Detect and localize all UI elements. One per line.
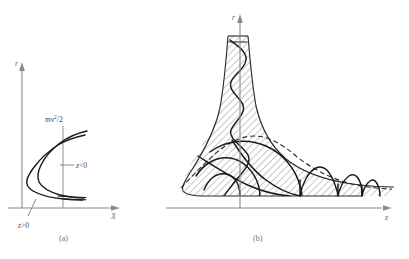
panel-a-reference-label: mv2/2 — [45, 114, 63, 124]
panel-b-r-axis-label: r — [232, 13, 236, 22]
figure-container: mv2/2 z<0 z>0 r X (a) — [0, 0, 409, 259]
panel-b-z-axis-label: z — [384, 213, 389, 222]
panel-a-annotation-z-positive: z>0 — [17, 199, 36, 230]
panel-b-z-axis — [166, 205, 392, 211]
two-panel-physics-diagram: mv2/2 z<0 z>0 r X (a) — [0, 0, 409, 259]
panel-a-annotation-z-positive-label: z>0 — [17, 221, 29, 230]
panel-b: r z (b) — [166, 13, 394, 243]
panel-a-x-axis-label: X — [110, 212, 117, 221]
panel-a: mv2/2 z<0 z>0 r X (a) — [8, 59, 120, 243]
panel-a-caption: (a) — [59, 234, 68, 243]
panel-a-r-axis-label: r — [15, 59, 19, 68]
panel-b-caption: (b) — [253, 234, 263, 243]
panel-a-x-axis — [8, 205, 120, 211]
panel-b-hatched-region — [183, 36, 392, 196]
panel-a-curve-tail-lower — [58, 196, 86, 198]
panel-a-annotation-z-negative: z<0 — [60, 161, 87, 170]
panel-a-r-axis — [19, 62, 25, 208]
panel-a-curve-tail-upper — [64, 199, 86, 200]
panel-a-annotation-z-negative-label: z<0 — [75, 161, 87, 170]
